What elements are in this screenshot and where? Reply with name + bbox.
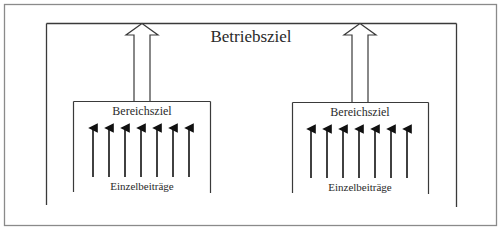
hollow-arrow-left — [126, 24, 158, 102]
diagram-canvas: Betriebsziel Bereichsziel Einzelbeiträge — [0, 0, 502, 233]
contribution-arrows-left — [93, 128, 189, 177]
area-goal-label-left: Bereichsziel — [112, 104, 172, 118]
hollow-arrow-right — [344, 24, 376, 103]
enterprise-goal-label: Betriebsziel — [210, 27, 291, 46]
individual-contributions-label-right: Einzelbeiträge — [328, 181, 392, 193]
individual-contributions-label-left: Einzelbeiträge — [110, 180, 174, 192]
area-goal-label-right: Bereichsziel — [330, 105, 390, 119]
enterprise-frame — [47, 24, 457, 208]
contribution-arrows-right — [311, 129, 407, 178]
